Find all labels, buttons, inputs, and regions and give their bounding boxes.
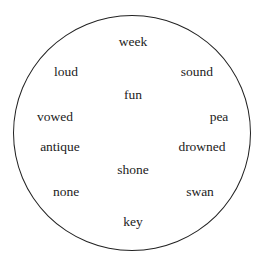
word-vowed: vowed [37,110,73,124]
word-pea: pea [210,110,229,124]
word-key: key [123,215,143,229]
word-sound: sound [181,65,213,79]
word-shone: shone [117,163,149,177]
word-fun: fun [124,88,142,102]
word-antique: antique [40,140,80,154]
word-drowned: drowned [178,140,225,154]
word-swan: swan [186,185,214,199]
word-none: none [53,185,79,199]
word-loud: loud [54,65,78,79]
word-week: week [119,35,147,49]
